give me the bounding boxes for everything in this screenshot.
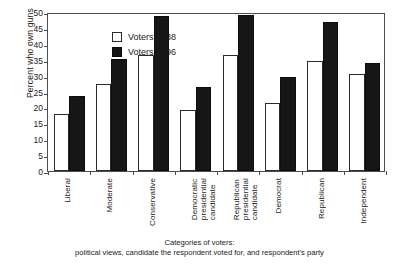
legend-swatch-1996	[112, 47, 122, 57]
bar-chart-figure: Percent who own guns 0510152025303540455…	[0, 0, 399, 272]
bar-group	[344, 14, 386, 171]
x-axis-category-label: Republican presidential candidate	[232, 178, 259, 220]
x-axis-category-label: Conservative	[148, 178, 157, 226]
y-axis-tick-label: 0	[38, 167, 43, 177]
bar-1996	[238, 15, 254, 171]
caption-line-2: political views, candidate the responden…	[0, 248, 399, 258]
y-axis-tick-label: 50	[34, 8, 43, 18]
x-axis-tick-mark	[344, 171, 345, 175]
caption-line-1: Categories of voters:	[0, 238, 399, 248]
bar-series-container	[48, 14, 384, 171]
bar-1988	[54, 114, 70, 171]
legend-item: Voters 1988	[112, 31, 176, 43]
bar-group	[48, 14, 90, 171]
bar-group	[302, 14, 344, 171]
bar-group	[259, 14, 301, 171]
x-axis-tick-mark	[90, 171, 91, 175]
bar-1996	[69, 96, 85, 171]
x-axis-tick-mark	[302, 171, 303, 175]
legend-swatch-1988	[112, 32, 122, 42]
legend-label: Voters 1996	[128, 47, 176, 57]
bar-1996	[323, 22, 339, 171]
x-axis-category-label: Democratic presidential candidate	[190, 178, 217, 220]
x-axis-tick-mark	[217, 171, 218, 175]
y-axis-tick-label: 10	[34, 135, 43, 145]
x-axis-tick-mark	[48, 171, 49, 175]
bar-group	[217, 14, 259, 171]
y-axis-tick-label: 20	[34, 103, 43, 113]
x-axis-tick-mark	[386, 171, 387, 175]
legend-label: Voters 1988	[128, 32, 176, 42]
x-axis-tick-mark	[259, 171, 260, 175]
bar-1988	[265, 103, 281, 171]
legend-item: Voters 1996	[112, 46, 176, 58]
y-axis-tick-label: 30	[34, 72, 43, 82]
bar-1996	[111, 59, 127, 171]
bar-1996	[196, 87, 212, 171]
x-axis-category-label: Democrat	[274, 178, 283, 213]
plot-area: 05101520253035404550 Voters 1988Voters 1…	[47, 13, 385, 172]
y-axis-tick-label: 45	[34, 24, 43, 34]
bar-group	[175, 14, 217, 171]
x-axis-category-label: Liberal	[63, 178, 72, 203]
chart-caption: Categories of voters: political views, c…	[0, 238, 399, 257]
bar-1988	[349, 74, 365, 171]
y-axis-tick-label: 35	[34, 56, 43, 66]
x-axis-category-label: Republican	[317, 178, 326, 219]
y-axis-tick-label: 25	[34, 88, 43, 98]
x-axis-category-label: Independent	[359, 178, 368, 224]
x-axis-category-label: Moderate	[105, 178, 114, 213]
y-axis-tick-label: 5	[38, 151, 43, 161]
bar-1988	[96, 84, 112, 171]
bar-1988	[223, 55, 239, 171]
bar-1988	[138, 55, 154, 171]
bar-1996	[280, 77, 296, 171]
bar-1988	[307, 61, 323, 171]
bar-1996	[365, 63, 381, 171]
x-axis-tick-mark	[133, 171, 134, 175]
y-axis-tick-label: 40	[34, 40, 43, 50]
chart-legend: Voters 1988Voters 1996	[112, 31, 176, 61]
bar-1988	[180, 110, 196, 171]
y-axis-tick-label: 15	[34, 119, 43, 129]
x-axis-tick-mark	[175, 171, 176, 175]
